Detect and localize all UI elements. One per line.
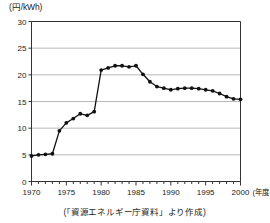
svg-text:1995: 1995 [197, 188, 215, 197]
plot-area-wrapper: 051015202530 197019751980198519901995200… [0, 0, 269, 200]
x-axis-unit-label: (年度) [253, 187, 270, 197]
svg-text:20: 20 [18, 71, 27, 80]
y-axis-ticks-group: 051015202530 [18, 18, 32, 187]
x-axis-ticks-group: 1970197519801985199019952000 [23, 182, 250, 197]
svg-text:1990: 1990 [162, 188, 180, 197]
svg-text:0: 0 [22, 178, 27, 187]
line-chart-svg: 051015202530 197019751980198519901995200… [0, 0, 269, 200]
svg-text:25: 25 [18, 44, 27, 53]
svg-text:30: 30 [18, 18, 27, 27]
svg-text:10: 10 [18, 124, 27, 133]
data-point-markers-group [30, 64, 243, 158]
source-caption: (「資源エネルギー庁資料」より作成) [0, 205, 269, 217]
svg-text:5: 5 [22, 151, 27, 160]
electricity-price-chart-figure: (円/kWh) 051015202530 1970197519801985199… [0, 0, 269, 223]
svg-text:1975: 1975 [57, 188, 75, 197]
svg-text:1985: 1985 [127, 188, 145, 197]
svg-text:15: 15 [18, 98, 27, 107]
gridlines-group [32, 22, 241, 155]
svg-text:1980: 1980 [92, 188, 110, 197]
svg-text:1970: 1970 [23, 188, 41, 197]
data-line-path [32, 66, 241, 156]
svg-text:2000: 2000 [232, 188, 250, 197]
